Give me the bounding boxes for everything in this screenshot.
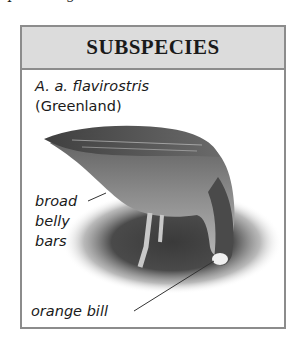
annotation-line: bars [35, 231, 77, 251]
annotation-orange-bill: orange bill [31, 301, 108, 321]
annotation-belly-bars: broad belly bars [35, 191, 77, 251]
goose-illustration [22, 27, 284, 327]
annotation-line: orange bill [31, 301, 108, 321]
annotation-line: belly [35, 211, 77, 231]
clipped-top-text: species fig [0, 0, 289, 6]
subspecies-panel: SUBSPECIES A. a. flavirostris (Greenland… [20, 25, 286, 329]
leader-line-belly [88, 193, 106, 201]
annotation-line: broad [35, 191, 77, 211]
